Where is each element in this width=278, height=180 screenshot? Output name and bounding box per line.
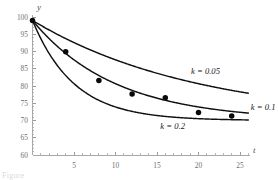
data-point <box>96 78 102 84</box>
x-tick-label: 10 <box>112 161 120 170</box>
axis-lines-group <box>33 15 250 155</box>
data-point <box>63 49 69 55</box>
y-tick-label: 90 <box>21 47 29 56</box>
y-axis-label: y <box>36 2 41 12</box>
x-axis-tick-labels: 510152025 <box>72 161 244 170</box>
x-tick-label: 25 <box>236 161 244 170</box>
data-point <box>163 95 169 101</box>
data-point <box>196 110 202 116</box>
x-tick-label: 15 <box>153 161 161 170</box>
x-axis-label: t <box>253 145 256 155</box>
data-point <box>30 18 36 24</box>
data-point <box>129 91 135 97</box>
exponential-decay-chart: 6065707580859095100 510152025 y t k = 0.… <box>0 0 278 180</box>
data-point <box>229 113 235 119</box>
x-tick-label: 20 <box>195 161 203 170</box>
y-tick-label: 95 <box>21 30 29 39</box>
curve-0-05 <box>33 20 249 93</box>
y-tick-label: 75 <box>21 99 29 108</box>
curve-label-0-2: k = 0.2 <box>160 121 185 131</box>
curve-label-0-05: k = 0.05 <box>191 66 221 76</box>
chart-container: 6065707580859095100 510152025 y t k = 0.… <box>0 0 278 180</box>
curve-labels-group: k = 0.05k = 0.1k = 0.2 <box>160 66 275 131</box>
curve-label-0-1: k = 0.1 <box>251 102 276 112</box>
x-tick-label: 5 <box>72 161 76 170</box>
y-tick-label: 60 <box>21 151 29 160</box>
caption-fragment: Figure <box>2 171 25 180</box>
y-tick-label: 100 <box>17 13 28 22</box>
y-axis-tick-labels: 6065707580859095100 <box>17 13 28 160</box>
y-tick-label: 65 <box>21 133 29 142</box>
y-tick-label: 85 <box>21 64 29 73</box>
y-tick-label: 80 <box>21 82 29 91</box>
y-tick-label: 70 <box>21 116 29 125</box>
